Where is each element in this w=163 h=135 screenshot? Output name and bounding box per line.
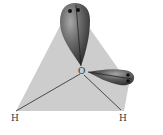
electron-dot	[126, 73, 130, 77]
water-molecule-diagram: O H H	[0, 0, 163, 135]
electron-dot	[68, 9, 72, 13]
hydrogen-label-left: H	[11, 114, 19, 123]
electron-dot	[126, 79, 130, 83]
hydrogen-label-right: H	[119, 114, 127, 123]
electron-dot	[76, 8, 80, 12]
oxygen-label: O	[78, 67, 85, 76]
